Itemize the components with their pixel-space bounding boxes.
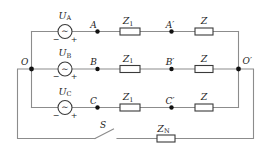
impedance-z1-a-box bbox=[120, 28, 140, 35]
impedance-z-a-box bbox=[195, 28, 213, 35]
node-b-dot bbox=[95, 67, 99, 71]
impedance-z1-b-label: Z1 bbox=[122, 53, 134, 66]
impedance-zn-label: ZN bbox=[156, 123, 170, 136]
impedance-z1-c-label: Z1 bbox=[122, 91, 134, 104]
node-o-prime-label: O′ bbox=[243, 56, 252, 66]
source-ua-label: UA bbox=[59, 10, 72, 23]
node-a-label: A bbox=[89, 20, 97, 30]
source-ua-label-sub: A bbox=[66, 14, 72, 22]
zn-label-sub: N bbox=[164, 127, 170, 135]
source-ub-minus: − bbox=[53, 72, 60, 81]
source-ub-label: UB bbox=[59, 47, 72, 60]
z1-c-label-sub: 1 bbox=[129, 96, 133, 104]
impedance-z-a-label: Z bbox=[200, 15, 208, 26]
source-ub-label-sub: B bbox=[67, 52, 72, 60]
node-o-label: O bbox=[21, 57, 29, 67]
impedance-z1-c-box bbox=[120, 104, 140, 111]
source-ub-plus: + bbox=[71, 72, 78, 81]
node-c-label: C bbox=[90, 96, 97, 106]
impedance-z-b-label: Z bbox=[200, 53, 208, 64]
node-a-prime-label: A′ bbox=[165, 20, 175, 30]
impedance-z-c-box bbox=[195, 104, 213, 111]
source-ua-minus: − bbox=[53, 35, 60, 44]
impedance-z-c-label: Z bbox=[200, 91, 208, 102]
node-a-prime-dot bbox=[169, 29, 173, 33]
source-uc-plus: + bbox=[71, 111, 78, 120]
z1-a-label-sub: 1 bbox=[129, 20, 133, 28]
switch-blade bbox=[95, 129, 114, 139]
source-uc-minus: − bbox=[53, 111, 60, 120]
phase-c-group: ∼ − + UC C Z1 C′ Z bbox=[53, 86, 213, 120]
node-o-dot bbox=[29, 67, 34, 72]
circuit-svg: ∼ − + UA A Z1 A′ Z ∼ − + UB B Z1 B′ Z ∼ … bbox=[0, 0, 267, 151]
impedance-zn-box bbox=[157, 135, 175, 142]
node-b-label: B bbox=[89, 57, 97, 67]
phase-b-group: ∼ − + UB B Z1 B′ Z bbox=[53, 47, 213, 81]
node-c-dot bbox=[95, 105, 99, 109]
source-uc-ac-icon: ∼ bbox=[61, 102, 69, 112]
node-b-prime-label: B′ bbox=[165, 57, 175, 67]
source-ub-ac-icon: ∼ bbox=[61, 64, 69, 74]
source-ua-plus: + bbox=[71, 35, 78, 44]
impedance-z1-b-box bbox=[120, 66, 140, 73]
source-ua-ac-icon: ∼ bbox=[61, 26, 69, 36]
node-o-prime-dot bbox=[236, 67, 241, 72]
node-b-prime-dot bbox=[169, 67, 173, 71]
node-c-prime-label: C′ bbox=[166, 96, 175, 106]
source-uc-label-sub: C bbox=[67, 90, 72, 98]
source-uc-label: UC bbox=[59, 86, 72, 99]
z1-b-label-sub: 1 bbox=[129, 57, 133, 65]
phase-a-group: ∼ − + UA A Z1 A′ Z bbox=[53, 10, 213, 44]
impedance-z-b-box bbox=[195, 66, 213, 73]
circuit-diagram: ∼ − + UA A Z1 A′ Z ∼ − + UB B Z1 B′ Z ∼ … bbox=[0, 0, 267, 151]
switch-s-label: S bbox=[100, 120, 106, 130]
impedance-z1-a-label: Z1 bbox=[122, 15, 134, 28]
node-c-prime-dot bbox=[169, 105, 173, 109]
node-a-dot bbox=[95, 29, 99, 33]
